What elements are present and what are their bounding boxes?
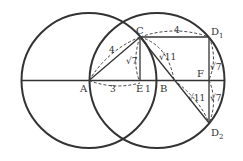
label-D2-sub: 2: [219, 133, 223, 141]
length-AC: 4: [109, 45, 115, 55]
length-EB: 1: [145, 84, 151, 94]
label-C: C: [136, 25, 144, 36]
label-D2: D: [211, 127, 219, 138]
label-A: A: [79, 83, 88, 94]
length-BD2: √11: [188, 93, 205, 103]
length-FD2: √7: [210, 93, 222, 103]
length-CB: √11: [159, 52, 176, 62]
length-CE: √7: [126, 56, 138, 66]
length-CD1: 4: [174, 25, 180, 35]
length-AE: 3: [110, 84, 116, 94]
label-B: B: [160, 83, 167, 94]
length-D1F: √7: [210, 62, 222, 72]
label-E: E: [136, 83, 143, 94]
label-D1-sub: 1: [219, 32, 223, 40]
label-D1: D: [211, 26, 219, 37]
label-F: F: [197, 68, 204, 79]
geometry-diagram: A B C E F D 1 D 2 4 4 3 1 √7 √11 √11 √7 …: [0, 0, 243, 161]
